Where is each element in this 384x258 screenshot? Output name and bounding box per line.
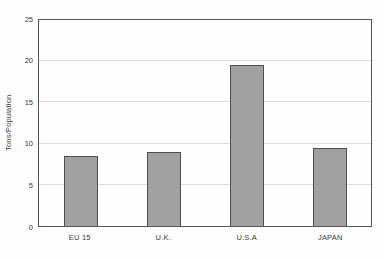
bar-chart-figure: Tons/Population 0510152025 EU 15U.K.U.S.… [0,0,384,258]
x-category-label: EU 15 [38,233,122,242]
x-category-label: U.K. [122,233,206,242]
bars-container [39,20,371,226]
y-tick-label: 10 [25,140,33,148]
x-category-label: JAPAN [289,233,373,242]
y-tick-label: 15 [25,98,33,106]
bar-u-s-a [230,65,264,226]
y-axis-ticks: 0510152025 [0,19,33,227]
plot-area [38,19,372,227]
bar-japan [313,148,347,226]
x-category-label: U.S.A [205,233,289,242]
y-tick-label: 0 [29,223,33,231]
y-tick-label: 5 [29,182,33,190]
y-tick-label: 25 [25,15,33,23]
y-tick-label: 20 [25,57,33,65]
bar-eu-15 [64,156,98,226]
bar-u-k- [147,152,181,226]
x-axis-labels: EU 15U.K.U.S.AJAPAN [38,233,372,242]
